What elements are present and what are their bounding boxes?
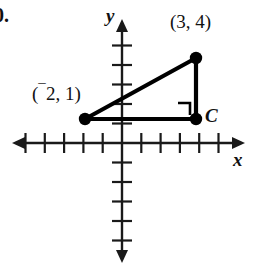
segment-hypotenuse xyxy=(85,58,196,119)
x-axis-right-arrowhead xyxy=(232,137,245,149)
x-axis-left-arrowhead xyxy=(12,137,25,149)
vertex-dot-b xyxy=(190,52,202,64)
y-axis-label: y xyxy=(106,6,114,25)
vertex-dot-a xyxy=(79,113,91,125)
y-axis-group xyxy=(112,19,132,263)
right-angle-marker xyxy=(178,103,190,115)
negative-sign-icon: ¯ xyxy=(38,81,45,97)
x-axis-label: x xyxy=(233,150,243,169)
triangle-group xyxy=(85,58,196,119)
y-axis-down-arrowhead xyxy=(116,250,128,263)
point-label-a: (¯2, 1) xyxy=(32,82,81,103)
point-a-body: 2, 1) xyxy=(46,83,81,104)
x-axis-group xyxy=(12,133,245,153)
y-axis-up-arrowhead xyxy=(116,19,128,32)
vertex-dot-c xyxy=(190,113,202,125)
vertex-label-c: C xyxy=(205,106,218,125)
point-label-b: (3, 4) xyxy=(170,12,211,31)
figure-container: 0. xyxy=(0,0,258,268)
coordinate-plane-graphic xyxy=(0,0,258,268)
